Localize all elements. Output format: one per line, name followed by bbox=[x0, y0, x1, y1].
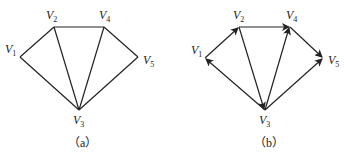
graph-a bbox=[20, 27, 138, 110]
node-label-v5-a: V5 bbox=[143, 53, 154, 69]
graph-b bbox=[205, 27, 322, 110]
node-label-v2-a: V2 bbox=[46, 8, 57, 24]
node-label-v4-a: V4 bbox=[99, 8, 110, 24]
node-label-v2-b: V2 bbox=[233, 8, 244, 24]
caption-a: （a） bbox=[68, 133, 97, 151]
node-label-v3-b: V3 bbox=[259, 113, 270, 129]
node-label-v4-b: V4 bbox=[286, 8, 297, 24]
node-label-v1-a: V1 bbox=[5, 42, 16, 58]
caption-b: （b） bbox=[254, 133, 284, 151]
node-label-v3-a: V3 bbox=[73, 113, 84, 129]
node-label-v5-b: V5 bbox=[328, 53, 339, 69]
node-label-v1-b: V1 bbox=[191, 43, 202, 59]
figure: V1 V2 V3 V4 V5 （a） V1 V2 V3 V4 V5 （b） bbox=[0, 0, 344, 156]
